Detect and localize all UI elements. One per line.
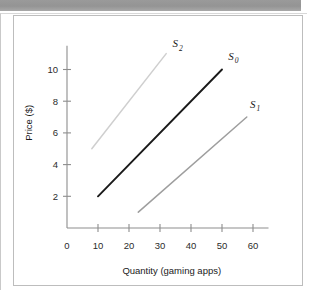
curve-label-s1: S1 (250, 98, 260, 113)
plot-area: 2468100102030405060Quantity (gaming apps… (14, 16, 304, 287)
supply-line-s2 (92, 54, 166, 149)
x-tick-label: 40 (186, 240, 197, 251)
x-tick-label: 0 (64, 240, 69, 251)
curve-label-s2: S2 (172, 37, 183, 52)
figure-root: THE SUPPLY CURVE 2468100102030405060Quan… (0, 0, 319, 293)
x-axis-title: Quantity (gaming apps) (122, 265, 221, 276)
banner-title: THE SUPPLY CURVE (6, 0, 112, 2)
curve-label-subscript: 2 (179, 44, 183, 53)
curve-label-letter: S (228, 50, 234, 62)
curve-label-letter: S (172, 37, 178, 49)
x-tick-label: 20 (124, 240, 135, 251)
x-tick-label: 50 (217, 240, 228, 251)
y-axis-title: Price ($) (23, 105, 34, 141)
x-tick-label: 60 (248, 240, 259, 251)
supply-line-s0 (98, 70, 222, 197)
curve-label-subscript: 0 (235, 56, 239, 65)
y-tick-label: 10 (47, 64, 58, 75)
y-tick-label: 4 (53, 159, 58, 170)
curve-label-s0: S0 (228, 50, 239, 65)
curve-label-letter: S (250, 98, 256, 110)
chart-panel: 2468100102030405060Quantity (gaming apps… (13, 15, 303, 286)
y-tick-label: 6 (53, 127, 58, 138)
x-tick-label: 30 (155, 240, 166, 251)
y-tick-label: 8 (53, 96, 58, 107)
supply-line-s1 (138, 117, 247, 212)
curve-label-subscript: 1 (256, 104, 260, 113)
supply-curve-chart: 2468100102030405060Quantity (gaming apps… (14, 16, 304, 287)
header-banner: THE SUPPLY CURVE (0, 0, 301, 11)
x-tick-label: 10 (93, 240, 104, 251)
y-tick-label: 2 (53, 191, 58, 202)
